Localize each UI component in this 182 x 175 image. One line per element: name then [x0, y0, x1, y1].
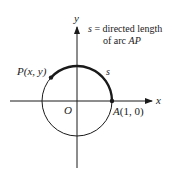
arc-ap — [51, 66, 112, 101]
annotation-line-2: of arc AP — [103, 35, 141, 46]
point-a-label: A(1, 0) — [112, 105, 144, 118]
point-a-dot — [110, 99, 114, 103]
annotation-line-1: s = directed length — [88, 23, 162, 34]
unit-circle-diagram: y x O P(x, y) A(1, 0) s s = directed len… — [0, 0, 182, 175]
point-p-label: P(x, y) — [16, 65, 47, 78]
x-axis-label: x — [155, 94, 161, 106]
y-axis-label: y — [73, 12, 79, 24]
point-p-dot — [49, 75, 53, 79]
origin-label: O — [64, 104, 72, 116]
arc-length-label: s — [106, 66, 110, 77]
